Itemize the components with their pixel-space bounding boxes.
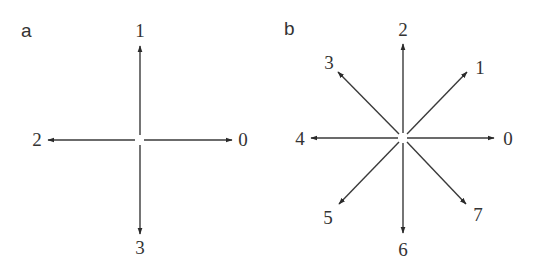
direction-label-3: 3	[135, 237, 145, 258]
arrow-a-2: 2	[32, 129, 135, 150]
arrow-b-0: 0	[407, 128, 513, 149]
direction-label-3: 3	[324, 52, 334, 73]
direction-label-0: 0	[238, 129, 248, 150]
direction-label-5: 5	[323, 207, 333, 228]
direction-label-0: 0	[503, 128, 513, 149]
direction-label-1: 1	[135, 20, 145, 41]
arrow-b-7: 7	[407, 142, 483, 225]
panel-b-label: b	[284, 18, 295, 39]
arrow-b-6: 6	[398, 143, 408, 260]
arrow-a-1: 1	[135, 20, 145, 135]
direction-label-2: 2	[398, 19, 408, 40]
arrow-b-1: 1	[407, 57, 485, 134]
direction-label-2: 2	[32, 129, 42, 150]
arrow-down-left-icon	[339, 142, 399, 204]
panel-a: a 0 1 2 3	[21, 20, 248, 258]
direction-label-7: 7	[473, 204, 483, 225]
chain-code-diagram: a 0 1 2 3 b 0 1 2	[0, 0, 541, 267]
arrow-down-right-icon	[407, 142, 466, 204]
arrow-up-right-icon	[407, 72, 467, 134]
arrow-a-0: 0	[144, 129, 248, 150]
arrow-up-left-icon	[338, 72, 399, 134]
direction-label-4: 4	[295, 128, 305, 149]
arrow-b-2: 2	[398, 19, 408, 133]
arrow-a-3: 3	[135, 145, 145, 258]
direction-label-1: 1	[475, 57, 485, 78]
direction-label-6: 6	[398, 239, 408, 260]
panel-a-label: a	[21, 20, 32, 41]
arrow-b-5: 5	[323, 142, 399, 228]
panel-b: b 0 1 2 3 4 5 6 7	[284, 18, 513, 260]
arrow-b-3: 3	[324, 52, 399, 134]
arrow-b-4: 4	[295, 128, 398, 149]
